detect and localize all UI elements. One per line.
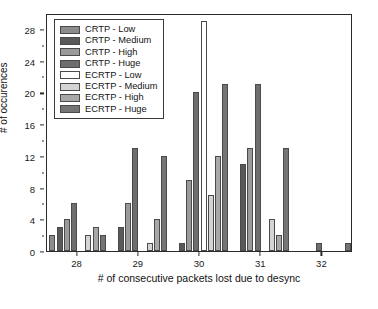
legend-swatch (60, 71, 80, 79)
legend-label: ECRTP - Huge (85, 104, 147, 115)
y-tick-label: 0 (30, 247, 35, 258)
y-tick-minor (42, 236, 45, 237)
legend-label: ECRTP - Medium (85, 81, 158, 92)
legend-label: CRTP - High (85, 47, 137, 58)
x-tick-label: 32 (316, 258, 327, 269)
y-tick-mark (40, 29, 44, 30)
legend-swatch (60, 26, 80, 34)
legend-label: CRTP - Huge (85, 58, 140, 69)
y-tick-mark (40, 156, 44, 157)
legend-swatch (60, 60, 80, 68)
y-tick-mark (40, 188, 44, 189)
legend-item: CRTP - Low (60, 24, 158, 35)
legend-swatch (60, 83, 80, 91)
y-tick-minor (42, 77, 45, 78)
x-axis: 2829303132 (46, 252, 352, 270)
legend-swatch (60, 105, 80, 113)
y-tick-minor (42, 204, 45, 205)
legend-item: ECRTP - High (60, 92, 158, 103)
y-tick-label: 16 (24, 120, 35, 131)
x-tick-label: 28 (71, 258, 82, 269)
y-tick-label: 20 (24, 88, 35, 99)
y-tick-mark (40, 251, 44, 252)
legend-item: CRTP - High (60, 47, 158, 58)
y-tick-minor (42, 109, 45, 110)
y-axis: 0481216202428 (0, 14, 44, 252)
legend-label: CRTP - Medium (85, 35, 151, 46)
y-tick-label: 28 (24, 24, 35, 35)
y-tick-label: 8 (30, 183, 35, 194)
y-tick-label: 24 (24, 56, 35, 67)
y-tick-minor (42, 140, 45, 141)
y-tick-minor (42, 45, 45, 46)
legend-swatch (60, 37, 80, 45)
y-tick-mark (40, 220, 44, 221)
y-tick-mark (40, 124, 44, 125)
legend: CRTP - LowCRTP - MediumCRTP - HighCRTP -… (54, 19, 164, 119)
legend-item: CRTP - Medium (60, 35, 158, 46)
y-tick-mark (40, 93, 44, 94)
x-tick-mark (76, 252, 77, 256)
x-tick-mark (260, 252, 261, 256)
legend-swatch (60, 48, 80, 56)
legend-item: CRTP - Huge (60, 58, 158, 69)
bar (316, 243, 322, 251)
legend-label: ECRTP - High (85, 92, 144, 103)
y-tick-label: 4 (30, 215, 35, 226)
legend-item: ECRTP - Huge (60, 104, 158, 115)
x-tick-mark (198, 252, 199, 256)
legend-item: ECRTP - Low (60, 70, 158, 81)
x-axis-title: # of consecutive packets lost due to des… (46, 272, 352, 284)
x-tick-mark (137, 252, 138, 256)
y-tick-minor (42, 172, 45, 173)
x-tick-label: 31 (255, 258, 266, 269)
y-tick-mark (40, 61, 44, 62)
legend-item: ECRTP - Medium (60, 81, 158, 92)
x-tick-mark (321, 252, 322, 256)
legend-swatch (60, 94, 80, 102)
x-tick-label: 30 (194, 258, 205, 269)
legend-label: CRTP - Low (85, 24, 135, 35)
bar (345, 243, 351, 251)
legend-label: ECRTP - Low (85, 70, 142, 81)
figure: # of occurences 0481216202428 2829303132… (0, 0, 378, 309)
y-tick-label: 12 (24, 151, 35, 162)
x-tick-label: 29 (133, 258, 144, 269)
